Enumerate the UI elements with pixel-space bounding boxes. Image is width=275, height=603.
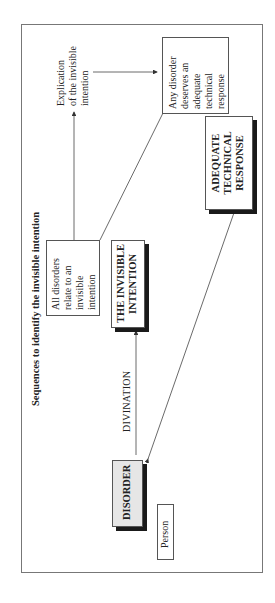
disorder-label: DISORDER: [121, 466, 133, 520]
text-line: technical: [203, 57, 215, 110]
text-line: intention: [79, 46, 91, 106]
text-line: relate to an: [62, 258, 74, 310]
diagram-title: Sequences to identify the invisible inte…: [30, 212, 42, 406]
text-line: response: [215, 57, 227, 110]
text-line: Explication: [55, 46, 67, 106]
text-line: INTENTION: [127, 245, 139, 323]
text-line: of the invisible: [67, 46, 79, 106]
text-line: Any disorder: [167, 57, 179, 110]
text-line: RESPONSE: [234, 123, 246, 203]
person-label: Person: [159, 521, 171, 548]
text-line: THE INVISIBLE: [115, 245, 127, 323]
divination-label: DIVINATION: [121, 371, 133, 432]
adequate-response-label: ADEQUATE TECHNICAL RESPONSE: [210, 123, 246, 203]
text-line: ADEQUATE: [210, 123, 222, 203]
explication-label: Explication of the invisible intention: [55, 46, 91, 106]
all-disorders-label: All disorders relate to an invisible int…: [50, 258, 98, 310]
text-line: intention: [86, 258, 98, 310]
any-disorder-label: Any disorder deserves an adequate techni…: [167, 57, 227, 110]
text-line: adequate: [191, 57, 203, 110]
text-line: deserves an: [179, 57, 191, 110]
text-line: invisible: [74, 258, 86, 310]
text-line: TECHNICAL: [222, 123, 234, 203]
text-line: All disorders: [50, 258, 62, 310]
invisible-intention-label: THE INVISIBLE INTENTION: [115, 245, 139, 323]
